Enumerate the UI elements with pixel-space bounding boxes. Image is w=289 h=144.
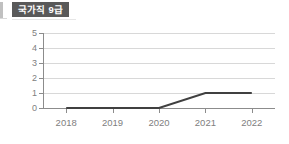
- y-tick-4: [39, 48, 44, 49]
- x-axis-label-2018: 2018: [46, 118, 86, 128]
- y-tick-5: [39, 33, 44, 34]
- gridline-y-5: [43, 33, 275, 34]
- x-axis-label-2020: 2020: [139, 118, 179, 128]
- gridline-y-2: [43, 78, 275, 79]
- y-axis-label-0: 0: [17, 104, 37, 113]
- x-axis-label-2022: 2022: [232, 118, 272, 128]
- gridline-y-1: [43, 93, 275, 94]
- cropped-neighbor-artifact: [0, 2, 3, 18]
- y-axis-label-5: 5: [17, 29, 37, 38]
- x-tick-2022: [252, 109, 253, 113]
- y-axis-label-4: 4: [17, 44, 37, 53]
- title-underline: [12, 19, 76, 20]
- x-tick-2021: [205, 109, 206, 113]
- plot-area: [43, 33, 275, 108]
- x-tick-2019: [113, 109, 114, 113]
- y-tick-0: [39, 108, 44, 109]
- y-axis-line: [43, 33, 44, 109]
- x-tick-2020: [159, 109, 160, 113]
- x-axis-label-2021: 2021: [185, 118, 225, 128]
- y-axis-label-1: 1: [17, 89, 37, 98]
- x-axis-label-2019: 2019: [93, 118, 133, 128]
- gridline-y-3: [43, 63, 275, 64]
- cropped-neighbor-rule: [0, 18, 7, 19]
- y-tick-1: [39, 93, 44, 94]
- chart-widget: 국가직 9급 01234520182019202020212022: [0, 0, 289, 144]
- y-tick-2: [39, 78, 44, 79]
- chart-title-badge: 국가직 9급: [12, 2, 69, 17]
- chart-title-label: 국가직 9급: [18, 5, 63, 15]
- y-axis-label-3: 3: [17, 59, 37, 68]
- gridline-y-4: [43, 48, 275, 49]
- y-axis-label-2: 2: [17, 74, 37, 83]
- y-tick-3: [39, 63, 44, 64]
- x-tick-2018: [66, 109, 67, 113]
